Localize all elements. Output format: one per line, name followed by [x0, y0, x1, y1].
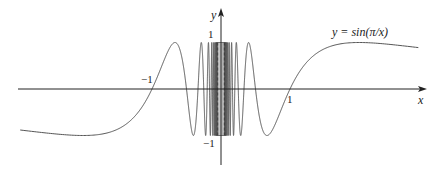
tick-label-y-pos1: 1	[208, 28, 214, 40]
x-axis-label: x	[417, 93, 424, 107]
tick-label-x-pos1: 1	[287, 93, 293, 105]
tick-label-x-neg1: −1	[141, 73, 153, 85]
tick-label-y-neg1: −1	[203, 137, 215, 149]
chart-plot: y x −1 1 1 −1 y = sin(π/x)	[0, 0, 442, 176]
y-axis-label: y	[210, 8, 217, 22]
equation-label: y = sin(π/x)	[331, 25, 388, 39]
